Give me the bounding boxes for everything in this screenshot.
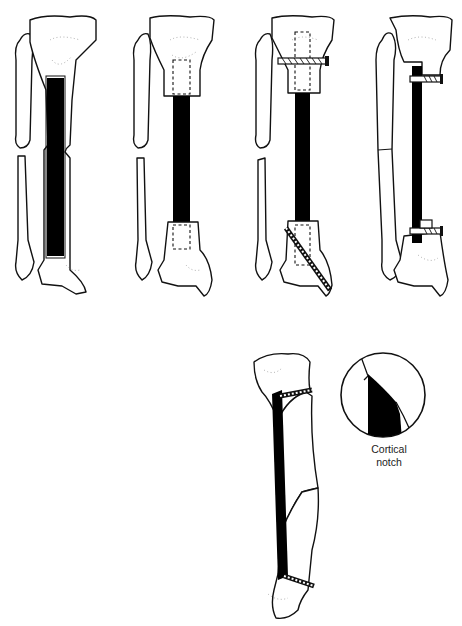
tibia-proximal (150, 16, 214, 96)
fibula (134, 34, 153, 280)
fibula (376, 33, 402, 280)
strut-graft (295, 93, 310, 221)
panel-a-inlay-graft (0, 0, 115, 300)
tibia-proximal (272, 16, 334, 93)
strut-graft (412, 66, 422, 243)
inset-cortical-notch (338, 350, 428, 442)
tibia-distal (158, 222, 212, 296)
proximal-screw (410, 74, 443, 84)
fibula (16, 34, 35, 280)
caption-line-2: notch (349, 456, 429, 469)
proximal-screw (278, 56, 329, 66)
strut-graft (173, 96, 190, 222)
panel-e-oblique-graft (248, 340, 328, 625)
panel-c-peg-graft-screws (248, 0, 358, 300)
inset-caption: Cortical notch (349, 443, 429, 469)
panel-d-onlay-graft-screws (360, 0, 462, 300)
panel-b-peg-graft (120, 0, 235, 300)
strut-graft (47, 78, 64, 256)
caption-line-1: Cortical (349, 443, 429, 456)
fibula (256, 34, 273, 280)
